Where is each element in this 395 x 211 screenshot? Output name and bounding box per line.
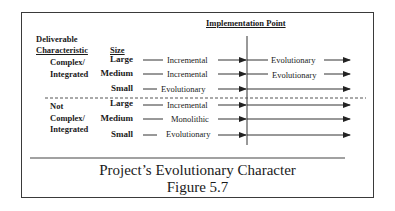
figure-title: Project’s Evolutionary Character xyxy=(0,162,395,179)
group-label-not-line3: Integrated xyxy=(50,124,88,134)
mode-before: Incremental xyxy=(167,100,208,110)
group-label-complex-line1: Complex/ xyxy=(50,57,85,67)
implementation-point-heading: Implementation Point xyxy=(206,18,286,28)
size-large: Large xyxy=(88,98,133,108)
group-label-not-line2: Complex/ xyxy=(50,113,85,123)
mode-before: Incremental xyxy=(167,55,208,65)
mode-before: Monolithic xyxy=(171,114,209,124)
mode-after: Evolutionary xyxy=(272,70,316,80)
group-label-complex-line2: Integrated xyxy=(50,69,88,79)
size-large: Large xyxy=(88,54,133,64)
mode-before: Evolutionary xyxy=(161,84,205,94)
mode-before: Incremental xyxy=(167,69,208,79)
deliverable-heading: Deliverable xyxy=(36,34,78,44)
figure-number: Figure 5.7 xyxy=(0,179,395,196)
size-medium: Medium xyxy=(88,68,133,78)
mode-before: Evolutionary xyxy=(166,129,210,139)
characteristic-heading: Characteristic xyxy=(36,45,88,55)
size-medium: Medium xyxy=(88,113,133,123)
size-small: Small xyxy=(88,83,133,93)
size-small: Small xyxy=(88,129,133,139)
mode-after: Evolutionary xyxy=(271,55,315,65)
group-label-not-line1: Not xyxy=(50,101,63,111)
